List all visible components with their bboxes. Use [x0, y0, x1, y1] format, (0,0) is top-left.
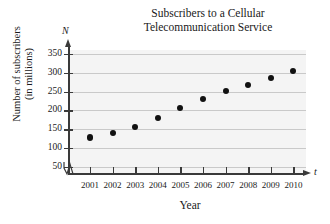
x-axis-tick-label: 2010	[276, 180, 310, 190]
y-axis-arrow-icon	[65, 39, 71, 47]
y-axis-title: Number of subscribers (in millions)	[11, 0, 35, 149]
x-axis-variable-label: t	[314, 166, 317, 177]
x-axis-tick	[180, 167, 181, 174]
chart-title: Subscribers to a Cellular Telecommunicat…	[108, 6, 308, 34]
x-axis-tick	[135, 167, 136, 174]
y-axis-title-line-1: Number of subscribers	[11, 0, 23, 149]
x-axis-tick	[158, 167, 159, 174]
x-axis-tick	[271, 167, 272, 174]
y-axis-tick-label: 50	[22, 161, 62, 171]
gridline	[70, 129, 306, 130]
data-point	[87, 134, 93, 140]
gridline	[70, 92, 306, 93]
plot-area	[70, 50, 306, 174]
x-axis-tick	[293, 167, 294, 174]
x-axis-tick	[226, 167, 227, 174]
data-point	[110, 130, 116, 136]
gridline	[70, 110, 306, 111]
chart-title-line-2: Telecommunication Service	[108, 20, 308, 34]
gridline	[70, 54, 306, 55]
y-axis-tick	[64, 148, 73, 149]
gridline	[70, 148, 306, 149]
y-axis-tick	[64, 110, 73, 111]
scatter-plot-figure: Subscribers to a Cellular Telecommunicat…	[0, 0, 330, 224]
y-axis-tick	[64, 54, 73, 55]
y-axis-tick	[64, 167, 73, 168]
x-axis-title: Year	[110, 199, 270, 211]
y-axis-tick	[64, 73, 73, 74]
data-point	[223, 88, 229, 94]
x-axis-tick	[90, 167, 91, 174]
y-axis-title-line-2: (in millions)	[23, 0, 35, 149]
y-axis-tick	[64, 129, 73, 130]
x-axis-tick	[113, 167, 114, 174]
y-axis-tick-label-wrap: 50	[18, 161, 62, 173]
x-axis-tick	[203, 167, 204, 174]
gridline	[70, 73, 306, 74]
x-axis-tick	[248, 167, 249, 174]
x-axis-arrow-icon	[303, 170, 311, 176]
y-axis-variable-label: N	[62, 25, 69, 36]
chart-title-line-1: Subscribers to a Cellular	[108, 6, 308, 20]
data-point	[268, 75, 274, 81]
y-axis-tick	[64, 92, 73, 93]
data-point	[200, 96, 206, 102]
